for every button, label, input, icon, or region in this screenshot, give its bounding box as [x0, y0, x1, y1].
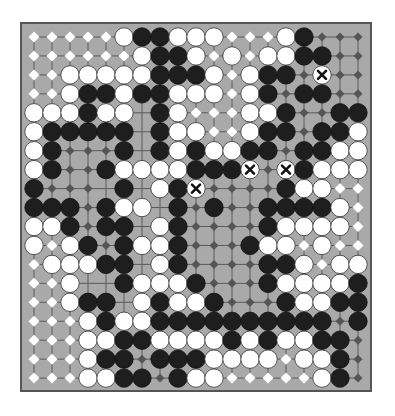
white-stone[interactable]: [61, 274, 79, 292]
black-stone[interactable]: [115, 179, 133, 197]
empty-point[interactable]: [99, 276, 113, 290]
black-stone[interactable]: [277, 293, 295, 311]
black-stone[interactable]: [61, 123, 79, 141]
black-stone[interactable]: [151, 28, 169, 46]
white-stone[interactable]: [169, 274, 187, 292]
white-stone[interactable]: [331, 217, 349, 235]
empty-point[interactable]: [81, 276, 95, 290]
black-stone[interactable]: [151, 104, 169, 122]
white-stone[interactable]: [61, 104, 79, 122]
white-stone[interactable]: [61, 236, 79, 254]
black-stone[interactable]: [295, 85, 313, 103]
white-stone[interactable]: [61, 85, 79, 103]
black-stone[interactable]: [349, 312, 367, 330]
white-stone[interactable]: [115, 312, 133, 330]
white-stone[interactable]: [25, 123, 43, 141]
white-stone[interactable]: [133, 236, 151, 254]
black-stone[interactable]: [313, 331, 331, 349]
white-stone[interactable]: [133, 274, 151, 292]
black-stone[interactable]: [169, 179, 187, 197]
white-stone[interactable]: [205, 369, 223, 387]
white-stone[interactable]: [25, 236, 43, 254]
white-stone[interactable]: [115, 160, 133, 178]
white-stone[interactable]: [223, 142, 241, 160]
white-stone[interactable]: [133, 66, 151, 84]
go-board[interactable]: [20, 22, 372, 392]
black-stone[interactable]: [259, 66, 277, 84]
black-stone[interactable]: [151, 66, 169, 84]
black-stone[interactable]: [133, 85, 151, 103]
white-stone[interactable]: [313, 160, 331, 178]
black-stone[interactable]: [223, 312, 241, 330]
black-stone[interactable]: [43, 142, 61, 160]
black-stone[interactable]: [151, 350, 169, 368]
white-stone[interactable]: [295, 217, 313, 235]
black-stone[interactable]: [259, 85, 277, 103]
white-stone[interactable]: [97, 66, 115, 84]
white-stone[interactable]: [313, 217, 331, 235]
empty-point[interactable]: [117, 295, 131, 309]
black-stone[interactable]: [205, 198, 223, 216]
white-stone[interactable]: [115, 198, 133, 216]
black-stone[interactable]: [313, 85, 331, 103]
black-stone[interactable]: [349, 274, 367, 292]
white-stone[interactable]: [205, 142, 223, 160]
black-stone[interactable]: [151, 123, 169, 141]
black-stone[interactable]: [151, 47, 169, 65]
white-stone[interactable]: [313, 236, 331, 254]
white-stone[interactable]: [295, 274, 313, 292]
white-stone[interactable]: [43, 255, 61, 273]
black-stone[interactable]: [61, 217, 79, 235]
black-stone[interactable]: [277, 312, 295, 330]
white-stone[interactable]: [205, 85, 223, 103]
white-stone[interactable]: [133, 47, 151, 65]
white-stone[interactable]: [205, 350, 223, 368]
black-stone[interactable]: [115, 142, 133, 160]
black-stone[interactable]: [169, 369, 187, 387]
white-stone[interactable]: [277, 28, 295, 46]
black-stone[interactable]: [115, 255, 133, 273]
white-stone[interactable]: [241, 104, 259, 122]
white-stone[interactable]: [133, 198, 151, 216]
black-stone[interactable]: [169, 217, 187, 235]
white-stone[interactable]: [97, 331, 115, 349]
white-stone[interactable]: [115, 104, 133, 122]
black-stone[interactable]: [169, 66, 187, 84]
black-stone[interactable]: [187, 142, 205, 160]
white-stone[interactable]: [241, 66, 259, 84]
white-stone[interactable]: [25, 160, 43, 178]
black-stone[interactable]: [295, 47, 313, 65]
black-stone[interactable]: [259, 312, 277, 330]
white-stone[interactable]: [313, 293, 331, 311]
white-stone[interactable]: [169, 85, 187, 103]
white-stone[interactable]: [295, 255, 313, 273]
black-stone[interactable]: [277, 123, 295, 141]
board-canvas[interactable]: [22, 24, 374, 394]
white-stone[interactable]: [79, 369, 97, 387]
black-stone[interactable]: [331, 293, 349, 311]
black-stone[interactable]: [259, 142, 277, 160]
black-stone[interactable]: [43, 160, 61, 178]
white-stone[interactable]: [133, 312, 151, 330]
black-stone[interactable]: [169, 350, 187, 368]
black-stone[interactable]: [277, 66, 295, 84]
white-stone[interactable]: [169, 160, 187, 178]
black-stone[interactable]: [295, 312, 313, 330]
black-stone[interactable]: [331, 104, 349, 122]
black-stone[interactable]: [241, 142, 259, 160]
white-stone[interactable]: [313, 274, 331, 292]
black-stone[interactable]: [169, 236, 187, 254]
black-stone[interactable]: [205, 312, 223, 330]
black-stone[interactable]: [187, 312, 205, 330]
black-stone[interactable]: [169, 255, 187, 273]
black-stone[interactable]: [97, 123, 115, 141]
white-stone[interactable]: [295, 350, 313, 368]
empty-point[interactable]: [135, 125, 149, 139]
white-stone[interactable]: [169, 28, 187, 46]
black-stone[interactable]: [331, 123, 349, 141]
black-stone[interactable]: [115, 217, 133, 235]
black-stone[interactable]: [133, 369, 151, 387]
white-stone[interactable]: [259, 104, 277, 122]
black-stone[interactable]: [331, 350, 349, 368]
white-stone[interactable]: [187, 369, 205, 387]
